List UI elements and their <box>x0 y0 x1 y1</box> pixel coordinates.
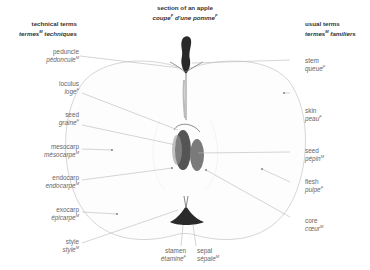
header-usual-en: usual terms <box>305 20 356 28</box>
label-core: core cœurM <box>305 217 323 233</box>
label-endocarp: endocarp endocarpeM <box>45 174 79 190</box>
header-technical-terms: technical terms termesM techniques <box>19 20 77 38</box>
label-style: style styleM <box>63 238 79 254</box>
label-flesh: flesh pulpeF <box>305 178 323 194</box>
label-stem: stem queueF <box>305 57 325 73</box>
label-seed-usual: seed pépinM <box>305 147 324 163</box>
header-technical-en: technical terms <box>19 20 77 28</box>
seed-right-shape <box>190 139 204 171</box>
label-exocarp: exocarp épicarpeM <box>51 206 79 222</box>
header-section-en: section of an apple <box>135 4 235 12</box>
label-loculus: loculus logeF <box>59 80 79 96</box>
label-peduncle: peduncle pédonculeM <box>46 48 79 64</box>
label-sepal: sepal sépaleM <box>197 247 219 263</box>
header-usual-fr: termesM familiers <box>305 28 356 38</box>
header-usual-terms: usual terms termesM familiers <box>305 20 356 38</box>
label-stamen: stamen étamineF <box>161 247 186 263</box>
label-seed-technical: seed graineF <box>59 111 79 127</box>
header-technical-fr: termesM techniques <box>19 28 77 38</box>
label-mesocarp: mesocarp mésocarpeM <box>44 143 79 159</box>
header-section-fr: coupeF d'une pommeF <box>135 12 235 22</box>
label-skin: skin peauF <box>305 107 322 123</box>
header-section-title: section of an apple coupeF d'une pommeF <box>135 4 235 22</box>
